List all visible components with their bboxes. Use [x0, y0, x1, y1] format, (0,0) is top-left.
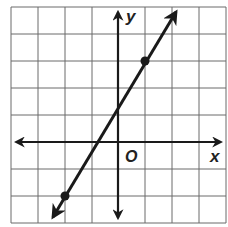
- x-axis-label: x: [209, 147, 221, 166]
- y-axis-label: y: [125, 7, 137, 26]
- point-neg2-neg2: [61, 192, 70, 201]
- coordinate-graph: y x O: [0, 0, 228, 227]
- point-1-3: [141, 57, 150, 66]
- origin-label: O: [125, 148, 138, 165]
